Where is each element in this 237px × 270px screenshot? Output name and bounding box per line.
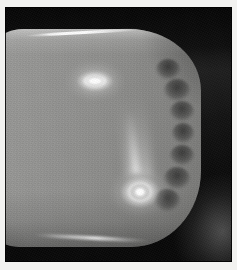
upper-spot-core [83, 75, 108, 87]
edge-lobe [155, 59, 181, 81]
photographic-plate [5, 7, 232, 262]
photograph-frame: Black-and-white photographic plate showi… [0, 0, 237, 270]
edge-lobe [163, 79, 191, 103]
edge-lobe [171, 123, 195, 145]
lower-emission-spot [105, 157, 175, 227]
edge-lobe [169, 101, 195, 123]
upper-emission-spot [64, 59, 126, 103]
lower-spot-core [132, 185, 149, 199]
